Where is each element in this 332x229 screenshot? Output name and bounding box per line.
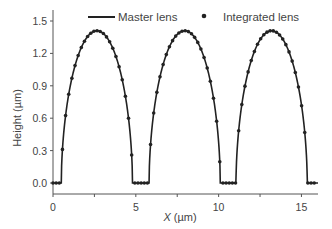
legend-integrated-label: Integrated lens (223, 11, 299, 23)
integrated-lens-marker (199, 47, 203, 51)
integrated-lens-marker (117, 65, 121, 69)
integrated-lens-marker (76, 54, 80, 58)
integrated-lens-marker (108, 40, 112, 44)
integrated-lens-marker (237, 129, 241, 133)
integrated-lens-marker (114, 55, 118, 59)
integrated-lens-marker (180, 29, 184, 33)
integrated-lens-marker (202, 56, 206, 60)
integrated-lens-marker (240, 103, 244, 107)
integrated-lens-marker (312, 181, 316, 185)
integrated-lens-marker (61, 148, 65, 152)
plot-area (51, 29, 318, 185)
y-tick-label: 0.0 (32, 177, 47, 189)
integrated-lens-marker (300, 104, 304, 108)
integrated-lens-marker (142, 181, 146, 185)
integrated-lens-marker (284, 43, 288, 47)
integrated-lens-marker (271, 29, 275, 33)
integrated-lens-marker (174, 34, 178, 38)
integrated-lens-marker (89, 31, 93, 35)
integrated-lens-marker (120, 78, 124, 82)
integrated-lens-marker (281, 37, 285, 41)
integrated-lens-marker (127, 117, 131, 121)
integrated-lens-marker (287, 50, 291, 54)
integrated-lens-marker (215, 119, 219, 123)
integrated-lens-marker (136, 181, 140, 185)
integrated-lens-marker (70, 76, 74, 80)
integrated-lens-marker (196, 41, 200, 45)
y-axis-label: Height (µm) (11, 89, 23, 147)
integrated-lens-marker (234, 181, 238, 185)
integrated-lens-marker (246, 70, 250, 74)
integrated-lens-marker (124, 94, 128, 98)
integrated-lens-marker (306, 181, 310, 185)
legend: Master lens Integrated lens (88, 11, 299, 23)
integrated-lens-marker (57, 181, 61, 185)
integrated-lens-marker (224, 181, 228, 185)
y-tick-label: 0.9 (32, 80, 47, 92)
integrated-lens-marker (177, 31, 181, 35)
integrated-lens-marker (262, 33, 266, 37)
integrated-lens-marker (209, 79, 213, 83)
integrated-lens-marker (80, 46, 84, 50)
master-lens-line (53, 31, 318, 183)
integrated-lens-marker (290, 59, 294, 63)
y-tick-label: 1.2 (32, 47, 47, 59)
integrated-lens-marker (243, 84, 247, 88)
integrated-lens-marker (86, 35, 90, 39)
x-tick-label: 15 (296, 201, 308, 213)
integrated-lens-marker (253, 50, 257, 54)
integrated-lens-marker (98, 30, 102, 34)
integrated-lens-marker (73, 64, 77, 68)
integrated-lens-marker (256, 43, 260, 47)
integrated-lens-marker (309, 181, 313, 185)
integrated-lens-marker (303, 131, 307, 135)
integrated-lens-marker (205, 66, 209, 70)
x-tick-label: 5 (133, 201, 139, 213)
legend-master-label: Master lens (118, 11, 178, 23)
integrated-lens-marker (164, 53, 168, 57)
integrated-lens-marker (51, 181, 55, 185)
integrated-lens-marker (95, 29, 99, 33)
integrated-lens-marker (259, 37, 263, 41)
integrated-lens-marker (139, 181, 143, 185)
lens-profile-chart: 0.00.30.60.91.21.5051015 Master lens Int… (0, 0, 332, 229)
integrated-lens-marker (105, 35, 109, 39)
integrated-lens-marker (231, 181, 235, 185)
integrated-lens-marker (168, 45, 172, 49)
integrated-lens-marker (130, 153, 134, 157)
integrated-lens-marker (158, 75, 162, 79)
integrated-lens-marker (268, 29, 272, 33)
integrated-lens-marker (83, 39, 87, 43)
y-tick-label: 1.5 (32, 15, 47, 27)
integrated-lens-marker (111, 46, 115, 50)
integrated-lens-marker (190, 32, 194, 36)
x-tick-label: 0 (50, 201, 56, 213)
integrated-lens-marker (265, 30, 269, 34)
integrated-lens-marker (152, 111, 156, 115)
integrated-lens-marker (149, 143, 153, 147)
integrated-lens-marker (146, 181, 150, 185)
y-tick-label: 0.6 (32, 112, 47, 124)
integrated-lens-marker (64, 114, 68, 118)
integrated-lens-marker (171, 39, 175, 43)
integrated-lens-marker (218, 160, 222, 164)
integrated-lens-marker (278, 33, 282, 37)
integrated-lens-marker (221, 181, 225, 185)
x-axis-label: X (µm) (162, 211, 196, 223)
integrated-lens-marker (102, 32, 106, 36)
integrated-lens-marker (193, 36, 197, 40)
integrated-lens-marker (155, 91, 159, 95)
integrated-lens-marker (294, 71, 298, 75)
integrated-lens-marker (183, 29, 187, 33)
x-tick-label: 10 (213, 201, 225, 213)
legend-marker-icon (202, 14, 207, 19)
integrated-lens-marker (227, 181, 231, 185)
integrated-lens-marker (275, 30, 279, 34)
integrated-lens-marker (161, 63, 165, 67)
integrated-lens-marker (54, 181, 58, 185)
axes: 0.00.30.60.91.21.5051015 (32, 10, 318, 213)
integrated-lens-marker (92, 30, 96, 34)
integrated-lens-marker (297, 85, 301, 89)
y-tick-label: 0.3 (32, 145, 47, 157)
integrated-lens-marker (67, 92, 71, 96)
